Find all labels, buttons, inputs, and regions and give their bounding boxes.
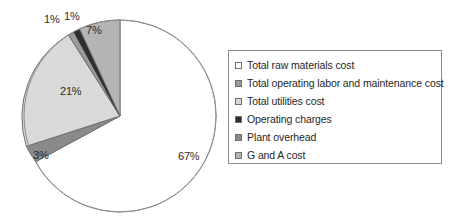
legend-item-label: G and A cost	[247, 150, 305, 161]
slice-value-label-total-utilities-cost: 21%	[60, 86, 81, 97]
legend-item-label: Total raw materials cost	[247, 60, 354, 71]
legend-swatch-icon	[235, 116, 242, 123]
legend-swatch-icon	[235, 134, 242, 141]
legend-item-operating-charges[interactable]: Operating charges	[235, 110, 441, 128]
legend-item-g-and-a-cost[interactable]: G and A cost	[235, 146, 441, 164]
legend-swatch-icon	[235, 62, 242, 69]
slice-value-label-operating-charges: 1%	[64, 11, 80, 22]
slice-value-label-plant-overhead: 3%	[33, 150, 49, 161]
legend-item-label: Total utilities cost	[247, 96, 324, 107]
legend-item-label: Total operating labor and maintenance co…	[247, 78, 444, 89]
slice-value-label-total-operating-labor-and-maintenance-cost: 1%	[44, 14, 60, 25]
pie-chart-figure: 67% 21% 3% 1% 1% 7% Total raw materials …	[0, 0, 461, 219]
chart-legend: Total raw materials cost Total operating…	[228, 50, 442, 164]
legend-item-total-utilities-cost[interactable]: Total utilities cost	[235, 92, 441, 110]
legend-item-total-operating-labor-and-maintenance-cost[interactable]: Total operating labor and maintenance co…	[235, 74, 441, 92]
legend-swatch-icon	[235, 98, 242, 105]
slice-value-label-total-raw-materials-cost: 67%	[178, 151, 199, 162]
slice-value-label-g-and-a-cost: 7%	[86, 25, 102, 36]
legend-item-label: Plant overhead	[247, 132, 316, 143]
legend-swatch-icon	[235, 80, 242, 87]
legend-swatch-icon	[235, 152, 242, 159]
legend-item-total-raw-materials-cost[interactable]: Total raw materials cost	[235, 56, 441, 74]
legend-item-plant-overhead[interactable]: Plant overhead	[235, 128, 441, 146]
legend-item-label: Operating charges	[247, 114, 332, 125]
